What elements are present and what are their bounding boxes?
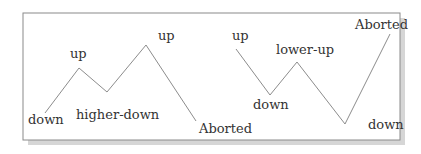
label-left-aborted: Aborted [198, 121, 252, 136]
label-higher-down: higher-down [76, 107, 160, 122]
label-left-down: down [28, 112, 64, 127]
label-left-up-2: up [158, 28, 175, 43]
label-right-aborted: Aborted [354, 17, 408, 32]
label-right-down-1: down [253, 97, 289, 112]
label-left-up-1: up [70, 46, 87, 61]
diagram-canvas: down up higher-down up Aborted up down l… [0, 0, 421, 154]
label-right-down-2: down [368, 117, 404, 132]
label-lower-up: lower-up [276, 42, 334, 57]
pattern-diagram: down up higher-down up Aborted up down l… [0, 0, 421, 154]
label-right-up: up [232, 28, 249, 43]
